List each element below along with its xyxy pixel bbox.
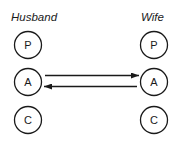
husband-parent-state: P xyxy=(15,32,42,59)
transaction-diagram: Husband Wife P A C P A C xyxy=(0,0,183,148)
husband-child-label: C xyxy=(24,114,32,126)
wife-child-state: C xyxy=(141,107,168,134)
husband-adult-label: A xyxy=(24,76,32,88)
wife-parent-label: P xyxy=(150,39,157,51)
husband-adult-state: A xyxy=(15,69,42,96)
wife-label: Wife xyxy=(141,11,164,23)
wife-adult-state: A xyxy=(141,69,168,96)
wife-adult-label: A xyxy=(150,76,158,88)
husband-parent-label: P xyxy=(24,39,31,51)
wife-parent-state: P xyxy=(141,32,168,59)
wife-child-label: C xyxy=(150,114,158,126)
husband-child-state: C xyxy=(15,107,42,134)
husband-label: Husband xyxy=(11,11,58,23)
